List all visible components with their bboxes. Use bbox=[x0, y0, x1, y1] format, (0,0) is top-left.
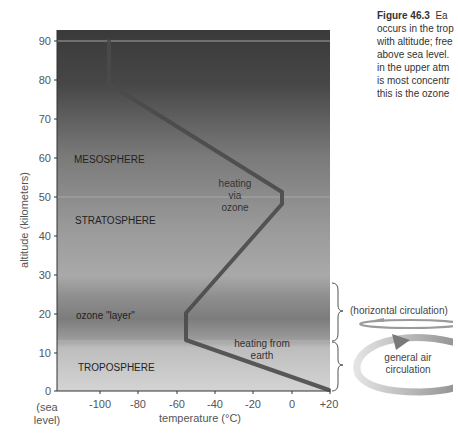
svg-text:50: 50 bbox=[39, 191, 51, 203]
caption-line: above sea level. bbox=[377, 48, 458, 61]
svg-text:-20: -20 bbox=[245, 398, 261, 410]
horizontal-circulation-arrow-icon bbox=[360, 320, 453, 328]
svg-text:+20: +20 bbox=[320, 398, 339, 410]
caption-line: in the upper atm bbox=[377, 61, 458, 74]
y-tick-labels: 0 10 20 30 40 50 60 70 80 90 bbox=[39, 35, 51, 397]
svg-text:ozone: ozone bbox=[221, 202, 249, 213]
svg-text:90: 90 bbox=[39, 35, 51, 47]
sea-level-label-1: (sea bbox=[36, 401, 58, 413]
svg-text:20: 20 bbox=[39, 308, 51, 320]
figure-caption: Figure 46.3 Ea occurs in the trop with a… bbox=[377, 9, 458, 100]
svg-text:earth: earth bbox=[251, 350, 274, 361]
caption-line: occurs in the trop bbox=[377, 22, 458, 35]
caption-line: with altitude; free bbox=[377, 35, 458, 48]
svg-text:heating from: heating from bbox=[234, 338, 290, 349]
layer-label-mesosphere: MESOSPHERE bbox=[74, 154, 145, 165]
x-tick-labels: -100 -80 -60 -40 -20 0 +20 bbox=[89, 398, 338, 410]
svg-text:40: 40 bbox=[39, 230, 51, 242]
lower-brace bbox=[332, 342, 343, 391]
layer-label-troposphere: TROPOSPHERE bbox=[78, 362, 155, 373]
general-circulation-label-2: circulation bbox=[385, 364, 430, 375]
svg-text:80: 80 bbox=[39, 74, 51, 86]
layer-label-stratosphere: STRATOSPHERE bbox=[75, 215, 156, 226]
svg-text:10: 10 bbox=[39, 347, 51, 359]
general-circulation-arrow-icon bbox=[357, 334, 453, 392]
upper-brace bbox=[332, 283, 343, 341]
caption-line: this is the ozone bbox=[377, 87, 458, 100]
plot-area bbox=[57, 30, 330, 391]
svg-text:0: 0 bbox=[45, 385, 51, 397]
horizontal-circulation-label: (horizontal circulation) bbox=[350, 305, 448, 316]
svg-text:-40: -40 bbox=[207, 398, 223, 410]
caption-line: is most concentr bbox=[377, 74, 458, 87]
y-axis-title: altitude (kilometers) bbox=[18, 172, 30, 268]
svg-text:heating: heating bbox=[219, 178, 252, 189]
general-circulation-label-1: general air bbox=[384, 352, 432, 363]
svg-text:70: 70 bbox=[39, 113, 51, 125]
svg-text:30: 30 bbox=[39, 269, 51, 281]
svg-text:0: 0 bbox=[289, 398, 295, 410]
figure-number: Figure 46.3 bbox=[377, 10, 430, 21]
svg-text:-60: -60 bbox=[169, 398, 185, 410]
x-axis-title: temperature (°C) bbox=[159, 412, 241, 424]
layer-label-ozone-layer: ozone "layer" bbox=[76, 310, 135, 321]
svg-text:60: 60 bbox=[39, 152, 51, 164]
svg-text:-100: -100 bbox=[89, 398, 111, 410]
sea-level-label-2: level) bbox=[34, 414, 60, 426]
svg-text:via: via bbox=[229, 190, 242, 201]
svg-text:-80: -80 bbox=[130, 398, 146, 410]
